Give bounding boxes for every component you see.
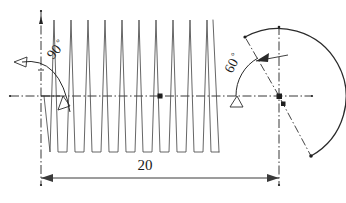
dimension-line-group bbox=[41, 174, 279, 182]
left-axis-arrow-up bbox=[39, 16, 43, 24]
right-arc-group bbox=[245, 28, 346, 156]
wave-path bbox=[44, 20, 219, 152]
centerline-left-dot bbox=[9, 95, 11, 97]
vertical-axis-right-bottom-dot bbox=[278, 184, 280, 186]
dimension-arrow-right bbox=[267, 174, 279, 182]
spring-wave-profile bbox=[44, 20, 219, 152]
sixty-degree-label: 60 bbox=[221, 56, 241, 75]
wave-trailing-stroke bbox=[213, 20, 219, 152]
angle-arc-left bbox=[22, 61, 70, 112]
radial-lower-right bbox=[281, 100, 311, 156]
radial-upper-left bbox=[245, 37, 279, 96]
wave-center-mark bbox=[158, 94, 163, 99]
engineering-drawing-canvas: 20 90 ° 60 ° bbox=[0, 0, 346, 203]
vertical-axis-left-bottom-dot bbox=[40, 184, 42, 186]
dimension-value-20: 20 bbox=[138, 157, 153, 173]
right-arc bbox=[245, 28, 346, 156]
vertical-axis-left-top-dot bbox=[40, 10, 42, 12]
sixty-degree-base-arrow bbox=[230, 96, 243, 107]
sixty-degree-label-group: 60 ° bbox=[221, 51, 244, 76]
ninety-degree-arc bbox=[22, 61, 70, 112]
sixty-base-arrowhead bbox=[230, 96, 243, 107]
sixty-leader-arrowhead bbox=[256, 53, 269, 62]
sixty-degree-leader bbox=[256, 53, 288, 62]
ninety-degree-label-group: 90 ° bbox=[44, 37, 68, 62]
center-marks bbox=[158, 94, 286, 107]
drawing-surface: 20 90 ° 60 ° bbox=[0, 0, 346, 203]
centerline-right-dot bbox=[311, 95, 313, 97]
arc-center-mark bbox=[277, 94, 283, 100]
dimension-arrow-left bbox=[41, 174, 53, 182]
